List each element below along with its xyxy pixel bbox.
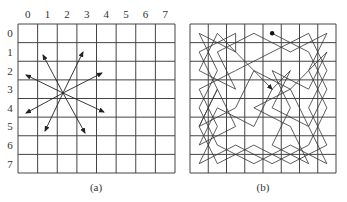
col-label: 0 xyxy=(25,8,31,20)
col-label: 5 xyxy=(123,8,129,20)
row-label: 7 xyxy=(7,158,13,170)
row-label: 5 xyxy=(7,120,13,132)
knight-tour-figure: 0123456701234567 (a) (b) xyxy=(0,0,347,202)
row-label: 6 xyxy=(7,139,13,151)
grid-a-labels: 0123456701234567 xyxy=(7,8,168,170)
tour-start-dot xyxy=(270,31,274,35)
caption-a: (a) xyxy=(90,181,103,194)
knight-move-arrow xyxy=(63,93,104,112)
knight-move-arrow xyxy=(43,55,63,93)
col-label: 6 xyxy=(143,8,149,20)
row-label: 1 xyxy=(7,46,13,58)
row-label: 3 xyxy=(7,83,13,95)
grid-b xyxy=(190,24,336,173)
caption-b: (b) xyxy=(257,181,270,194)
col-label: 4 xyxy=(104,8,110,20)
col-label: 3 xyxy=(84,8,90,20)
col-label: 2 xyxy=(64,8,70,20)
row-label: 2 xyxy=(7,65,13,77)
col-label: 7 xyxy=(162,8,168,20)
row-label: 4 xyxy=(7,102,13,114)
row-label: 0 xyxy=(7,27,13,39)
col-label: 1 xyxy=(45,8,51,20)
grid-a xyxy=(18,24,175,173)
knight-move-arrow xyxy=(63,52,83,93)
